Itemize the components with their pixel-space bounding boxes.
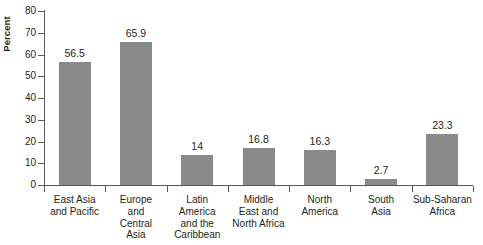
x-axis-category-label: EuropeandCentralAsia	[105, 194, 166, 241]
bar-value-label: 23.3	[412, 120, 472, 131]
x-axis-category-label-line: Asia	[105, 229, 166, 241]
y-axis-tick-label: 80	[0, 6, 36, 16]
y-axis-tick-label-text: 0	[2, 180, 36, 190]
bar-chart: Percent 01020304050607080 56.565.91416.8…	[0, 0, 483, 245]
y-axis-tick	[38, 163, 44, 164]
y-axis-tick-label: 40	[0, 93, 36, 103]
bar-value-label: 14	[167, 141, 227, 152]
y-axis-tick	[38, 76, 44, 77]
y-axis-tick-label-text: 20	[2, 137, 36, 147]
y-axis-tick-label: 0	[0, 180, 36, 190]
x-axis-category-label-line: Central	[105, 218, 166, 230]
bar-value-label: 56.5	[45, 48, 105, 59]
y-axis-tick	[38, 142, 44, 143]
x-axis-category-label: LatinAmericaand theCaribbean	[167, 194, 228, 241]
x-axis-category-label: East Asiaand Pacific	[44, 194, 105, 218]
y-axis-tick-label: 70	[0, 28, 36, 38]
bar	[59, 62, 91, 185]
y-axis-line	[44, 10, 45, 186]
bar	[426, 134, 458, 185]
bar-value-label: 65.9	[106, 28, 166, 39]
x-axis-category-label: Sub-SaharanAfrica	[412, 194, 473, 218]
bar-value-label: 16.8	[229, 134, 289, 145]
x-axis-tick	[105, 186, 106, 192]
y-axis-tick-label: 60	[0, 50, 36, 60]
x-axis-category-label: MiddleEast andNorth Africa	[228, 194, 289, 229]
x-axis-category-label: SouthAsia	[350, 194, 411, 218]
x-axis-category-label-line: and Pacific	[44, 206, 105, 218]
y-axis-tick-label-text: 60	[2, 50, 36, 60]
x-axis-category-label-line: East and	[228, 206, 289, 218]
x-axis-category-label-line: North	[289, 194, 350, 206]
bar	[243, 148, 275, 185]
y-axis-tick-label-text: 10	[2, 158, 36, 168]
y-axis-tick-label-text: 50	[2, 71, 36, 81]
x-axis-line	[44, 185, 473, 186]
x-axis-category-label-line: Africa	[412, 206, 473, 218]
y-axis-tick-label: 50	[0, 71, 36, 81]
x-axis-category-label: NorthAmerica	[289, 194, 350, 218]
bar	[304, 150, 336, 185]
x-axis-category-label-line: Caribbean	[167, 229, 228, 241]
x-axis-category-label-line: Europe	[105, 194, 166, 206]
x-axis-tick	[44, 186, 45, 192]
x-axis-category-label-line: Middle	[228, 194, 289, 206]
x-axis-tick	[473, 186, 474, 192]
bar	[120, 42, 152, 185]
x-axis-category-label-line: America	[289, 206, 350, 218]
y-axis-tick	[38, 11, 44, 12]
y-axis-tick	[38, 120, 44, 121]
x-axis-tick	[167, 186, 168, 192]
y-axis-tick	[38, 33, 44, 34]
x-axis-tick	[228, 186, 229, 192]
bar	[365, 179, 397, 185]
y-axis-tick-label-text: 70	[2, 28, 36, 38]
y-axis-tick-label: 20	[0, 137, 36, 147]
x-axis-category-label-line: Sub-Saharan	[412, 194, 473, 206]
x-axis-tick	[289, 186, 290, 192]
x-axis-category-label-line: South	[350, 194, 411, 206]
y-axis-tick-label-text: 80	[2, 6, 36, 16]
bar	[181, 155, 213, 185]
x-axis-category-label-line: Latin	[167, 194, 228, 206]
bar-value-label: 2.7	[351, 165, 411, 176]
y-axis-tick-label-text: 40	[2, 93, 36, 103]
y-axis-tick	[38, 98, 44, 99]
x-axis-category-label-line: and	[105, 206, 166, 218]
x-axis-category-label-line: and the	[167, 218, 228, 230]
y-axis-tick-label: 30	[0, 115, 36, 125]
x-axis-category-label-line: East Asia	[44, 194, 105, 206]
x-axis-tick	[412, 186, 413, 192]
y-axis-tick-label: 10	[0, 158, 36, 168]
x-axis-tick	[350, 186, 351, 192]
y-axis-tick	[38, 55, 44, 56]
x-axis-category-label-line: Asia	[350, 206, 411, 218]
x-axis-category-label-line: North Africa	[228, 218, 289, 230]
y-axis-tick-label-text: 30	[2, 115, 36, 125]
bar-value-label: 16.3	[290, 136, 350, 147]
x-axis-category-label-line: America	[167, 206, 228, 218]
